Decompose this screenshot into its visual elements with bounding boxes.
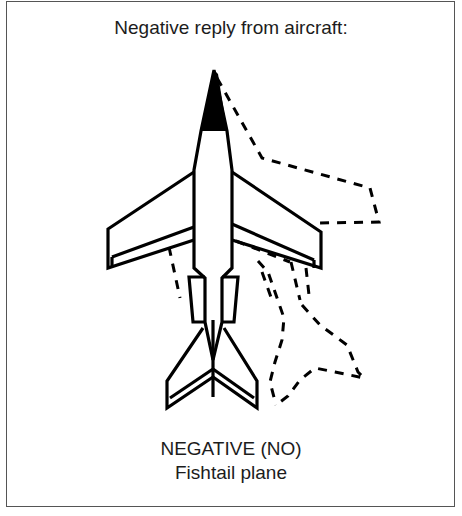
signal-name: NEGATIVE (NO) [0,438,462,460]
nose-cone [201,70,227,131]
signal-description: Fishtail plane [0,462,462,484]
